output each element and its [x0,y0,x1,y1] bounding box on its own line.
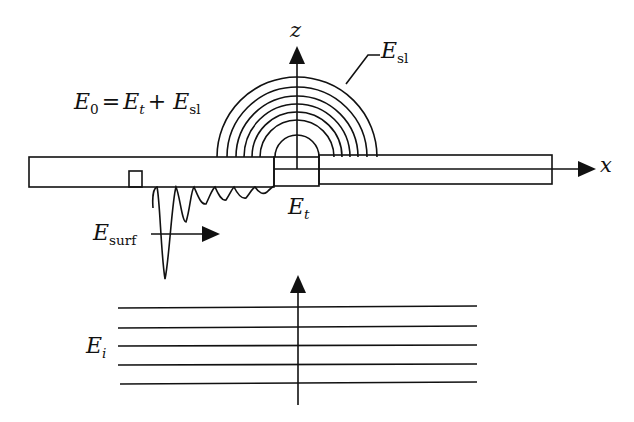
scattered-field-label: Esl [381,40,408,65]
incident-arrowhead [290,275,306,293]
slab-waveguide [29,155,552,187]
transmitted-field-label: Et [288,196,310,221]
z-axis-arrowhead [289,46,305,64]
left-slab [29,157,274,187]
eq-plus: + [148,89,166,114]
field-equation: E0=Et+Esl [74,91,201,116]
z-axis-label: z [290,20,301,41]
surface-arrowhead [202,226,220,242]
x-axis-arrowhead [578,161,596,177]
eq-et: Et [123,89,145,114]
esl-leader-line [346,55,380,84]
eq-equals: = [102,89,120,114]
surface-field-label: Esurf [93,222,136,247]
x-axis-label: x [600,155,612,176]
groove [129,171,142,187]
eq-esl: Esl [173,89,200,114]
eq-e0: E0 [74,89,99,114]
incident-field-label: Ei [86,335,106,360]
